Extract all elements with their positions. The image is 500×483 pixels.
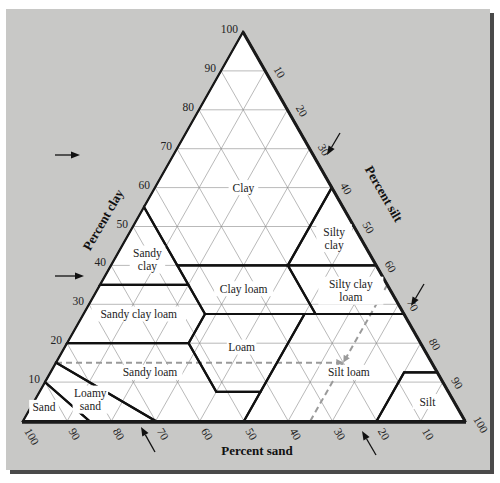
tick-silt-60: 60: [382, 258, 398, 274]
tick-sand-60: 60: [199, 426, 215, 442]
tick-silt-100: 100: [471, 414, 490, 435]
region-label: Sandy loam: [123, 366, 178, 379]
region-label: Sandy: [133, 247, 162, 260]
tick-sand-20: 20: [376, 426, 392, 442]
axis-title-silt: Percent silt: [362, 163, 406, 225]
region-label: Sand: [32, 401, 55, 413]
soil-texture-triangle: ClaySandyclaySiltyclaySandy clay loamCla…: [0, 0, 500, 483]
tick-clay-90: 90: [205, 62, 217, 74]
region-label: Loam: [228, 341, 255, 353]
region-label: Sandy clay loam: [100, 308, 177, 321]
tick-silt-40: 40: [338, 181, 354, 197]
clay-axis-arrow-upper-icon: [55, 152, 80, 159]
region-label: Silt loam: [328, 366, 370, 378]
tick-sand-10: 10: [420, 426, 436, 442]
tick-clay-10: 10: [29, 373, 41, 385]
sand-axis-arrow-right-icon: [362, 431, 376, 455]
region-label: Clay: [233, 182, 255, 195]
region-label: Silt: [419, 396, 436, 408]
tick-clay-100: 100: [221, 23, 239, 35]
tick-clay-40: 40: [95, 256, 107, 268]
axis-title-sand: Percent sand: [221, 443, 293, 458]
tick-clay-20: 20: [51, 334, 63, 346]
tick-sand-50: 50: [243, 426, 259, 442]
tick-silt-80: 80: [427, 336, 443, 352]
clay-axis-arrow-lower-icon: [55, 273, 84, 280]
tick-clay-30: 30: [73, 295, 85, 307]
region-label: sand: [80, 400, 101, 412]
region-label: clay: [325, 239, 344, 252]
tick-sand-70: 70: [155, 426, 171, 442]
region-label: Silty clay: [329, 278, 373, 291]
sand-axis-arrow-left-icon: [141, 427, 155, 452]
region-label: clay: [138, 260, 157, 273]
tick-sand-40: 40: [287, 426, 303, 442]
tick-sand-80: 80: [111, 426, 127, 442]
tick-clay-70: 70: [161, 140, 173, 152]
region-label: Clay loam: [220, 283, 268, 296]
tick-silt-20: 20: [294, 103, 310, 119]
region-label: Silty: [323, 226, 345, 239]
region-label: Loamy: [74, 387, 107, 400]
tick-sand-90: 90: [66, 426, 82, 442]
tick-silt-50: 50: [360, 220, 376, 236]
tick-clay-60: 60: [139, 179, 151, 191]
tick-silt-90: 90: [449, 375, 465, 391]
tick-silt-10: 10: [271, 64, 287, 80]
tick-clay-80: 80: [183, 101, 195, 113]
tick-sand-30: 30: [332, 426, 348, 442]
tick-sand-100: 100: [22, 426, 41, 447]
tick-clay-50: 50: [117, 218, 129, 230]
silt-axis-arrow-upper-icon: [327, 133, 340, 155]
region-label: loam: [339, 291, 362, 303]
